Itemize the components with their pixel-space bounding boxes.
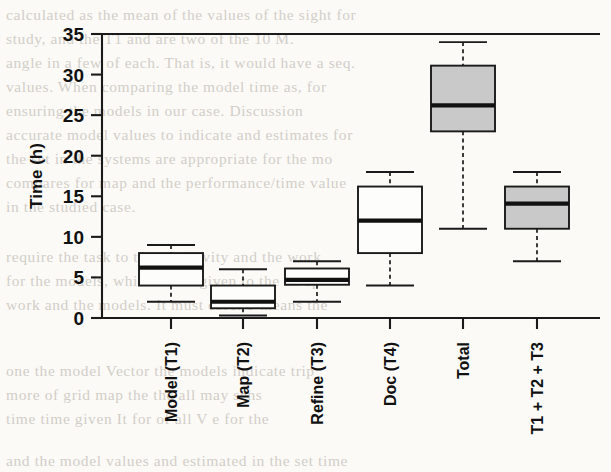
boxplot-4 [358,172,422,286]
y-tick-label: 0 [73,308,84,329]
boxplot-3 [285,261,349,302]
x-category-label: Total [455,342,472,379]
boxplot-5 [431,42,495,229]
box-iqr [431,66,495,132]
category-labels: Model (T1)Map (T2)Refine (T3)Doc (T4)Tot… [163,342,546,435]
x-category-label: T1 + T2 + T3 [529,342,546,435]
x-category-label: Map (T2) [235,342,252,408]
y-tick-label: 10 [63,227,84,248]
boxplot-1 [139,245,203,302]
box-iqr [285,269,349,285]
y-axis-title: Time (h) [27,143,46,209]
boxplot-2 [211,269,275,315]
x-category-label: Model (T1) [163,342,180,422]
y-tick-label: 15 [63,186,85,207]
x-category-label: Refine (T3) [309,342,326,425]
figure-canvas: calculated as the mean of the values of … [0,0,611,472]
y-tick-label: 5 [73,267,84,288]
y-tick-label: 30 [63,65,84,86]
x-category-label: Doc (T4) [382,342,399,406]
boxplot-series [139,42,569,315]
y-tick-label: 20 [63,146,84,167]
y-tick-label: 25 [63,105,85,126]
box-iqr [505,187,569,229]
boxplot-chart: 05101520253035Time (h) Model (T1)Map (T2… [0,0,611,472]
box-iqr [211,286,275,309]
boxplot-6 [505,172,569,261]
y-tick-label: 35 [63,24,85,45]
